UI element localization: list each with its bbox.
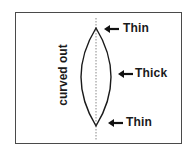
arrow-middle-icon bbox=[118, 70, 133, 78]
arrow-top-icon bbox=[104, 25, 119, 33]
callout-bottom-label: Thin bbox=[126, 115, 152, 129]
callout-top-label: Thin bbox=[123, 21, 149, 35]
arrow-bottom-icon bbox=[108, 119, 123, 127]
side-label: curved out bbox=[56, 44, 70, 105]
callout-middle-label: Thick bbox=[135, 66, 167, 80]
